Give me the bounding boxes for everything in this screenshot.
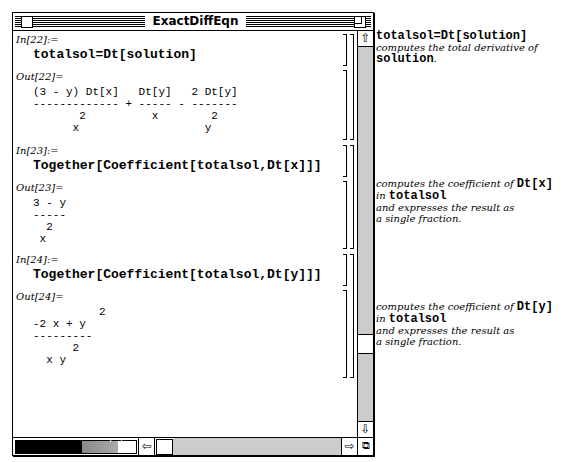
output-label: Out[22]=: [16, 71, 64, 83]
cell-bracket[interactable]: [343, 70, 347, 140]
cell-bracket[interactable]: [343, 145, 347, 177]
scroll-down-arrow-icon[interactable]: ⇩: [358, 421, 373, 437]
output-cell: 2 -2 x + y --------- 2 x y: [33, 306, 106, 366]
title-stripes: [15, 16, 145, 27]
note-text: .: [434, 53, 437, 64]
group-bracket[interactable]: [350, 254, 354, 378]
notebook-content[interactable]: In[22]:= totalsol=Dt[solution] Out[22]= …: [13, 31, 357, 437]
note-code: totalsol=Dt[solution]: [376, 31, 576, 42]
output-cell: (3 - y) Dt[x] Dt[y] 2 Dt[y] ------------…: [33, 86, 238, 134]
note-text: a single fraction.: [376, 336, 576, 347]
scroll-up-arrow-icon[interactable]: ⇧: [358, 31, 373, 47]
horizontal-scroll-track[interactable]: [173, 438, 341, 455]
notebook-window: ExactDiffEqn In[22]:= totalsol=Dt[soluti…: [12, 12, 374, 456]
cell-bracket[interactable]: [343, 254, 347, 286]
cell-bracket[interactable]: [343, 290, 347, 378]
scroll-right-arrow-icon[interactable]: ⇨: [341, 438, 357, 455]
magnification-control[interactable]: ' ': [15, 440, 137, 454]
input-label: In[22]:=: [16, 34, 59, 46]
note-22: totalsol=Dt[solution] computes the total…: [376, 31, 576, 65]
vertical-scroll-thumb[interactable]: [358, 334, 373, 354]
cell-bracket[interactable]: [343, 34, 347, 66]
note-text: computes the coefficient of: [376, 301, 517, 312]
note-code: Dt[x]: [517, 177, 553, 191]
note-text: a single fraction.: [376, 213, 576, 224]
magnification-label: ' ': [108, 439, 124, 449]
input-cell[interactable]: totalsol=Dt[solution]: [33, 47, 197, 63]
note-code: totalsol: [389, 189, 447, 203]
note-24: computes the coefficient of Dt[y] in tot…: [376, 301, 576, 347]
output-label: Out[24]=: [16, 291, 64, 303]
note-code: solution: [376, 52, 434, 66]
group-bracket[interactable]: [350, 145, 354, 249]
input-cell[interactable]: Together[Coefficient[totalsol,Dt[y]]]: [33, 267, 322, 283]
horizontal-scrollbar[interactable]: ' ' ⇦ ⇨ ⧉: [13, 437, 373, 455]
grow-box-icon[interactable]: ⧉: [357, 438, 373, 455]
note-text: and expresses the result as: [376, 202, 576, 213]
vertical-scrollbar[interactable]: ⇧ ⇩: [357, 31, 373, 437]
horizontal-scroll-thumb[interactable]: [156, 439, 173, 455]
output-label: Out[23]=: [16, 182, 64, 194]
cell-bracket[interactable]: [343, 181, 347, 249]
title-stripes: [246, 16, 371, 27]
close-box-button[interactable]: [21, 16, 33, 28]
input-cell[interactable]: Together[Coefficient[totalsol,Dt[x]]]: [33, 158, 322, 174]
group-bracket[interactable]: [350, 34, 354, 140]
output-cell: 3 - y ----- 2 x: [33, 197, 66, 245]
note-text: in: [376, 313, 389, 324]
note-code: Dt[y]: [517, 300, 553, 314]
note-23: computes the coefficient of Dt[x] in tot…: [376, 178, 576, 224]
input-label: In[24]:=: [16, 254, 59, 266]
note-text: and expresses the result as: [376, 325, 576, 336]
window-title: ExactDiffEqn: [149, 14, 242, 29]
note-text: computes the coefficient of: [376, 178, 517, 189]
title-bar[interactable]: ExactDiffEqn: [13, 13, 373, 31]
note-text: in: [376, 190, 389, 201]
note-code: totalsol: [389, 312, 447, 326]
scroll-left-arrow-icon[interactable]: ⇦: [138, 438, 155, 455]
zoom-box-button[interactable]: [354, 16, 366, 28]
input-label: In[23]:=: [16, 145, 59, 157]
